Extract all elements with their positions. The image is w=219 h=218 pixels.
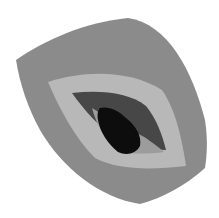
eye-icon bbox=[0, 0, 219, 218]
eye-illustration bbox=[0, 0, 219, 218]
